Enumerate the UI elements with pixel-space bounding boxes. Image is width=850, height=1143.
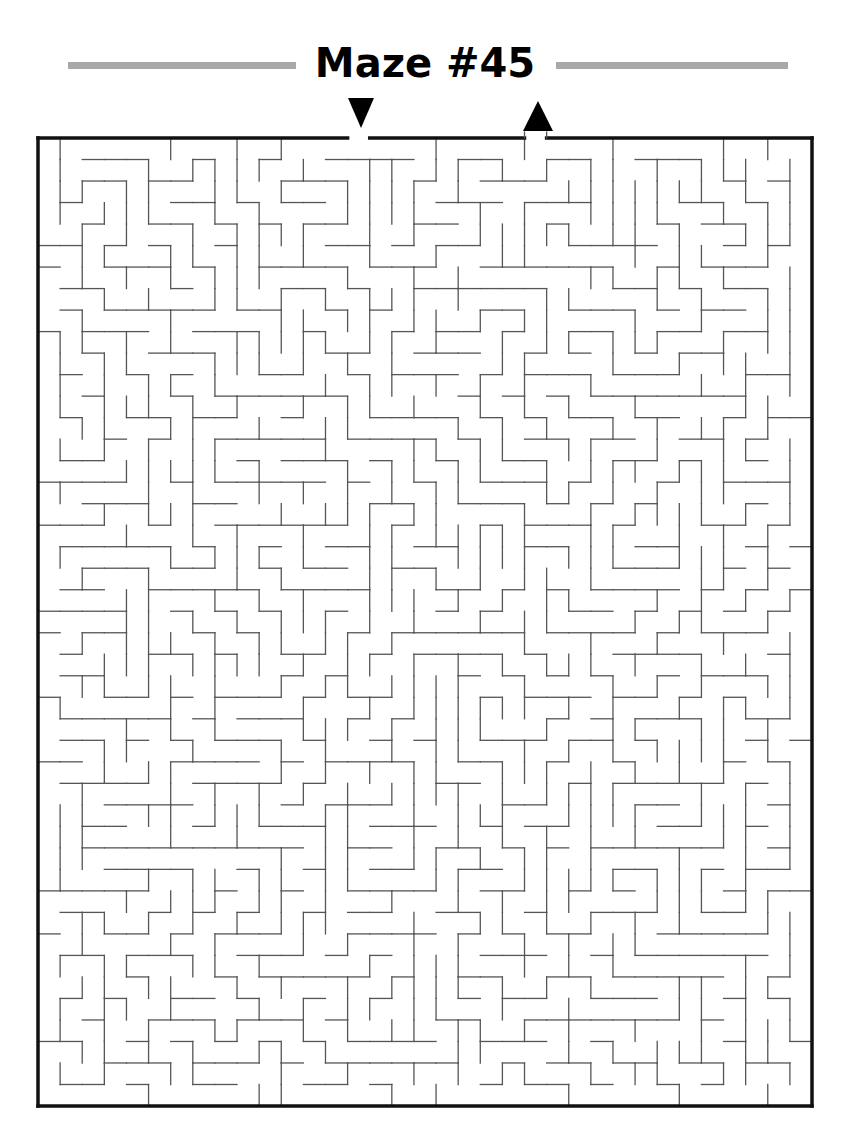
maze-grid[interactable] [0, 0, 850, 1143]
